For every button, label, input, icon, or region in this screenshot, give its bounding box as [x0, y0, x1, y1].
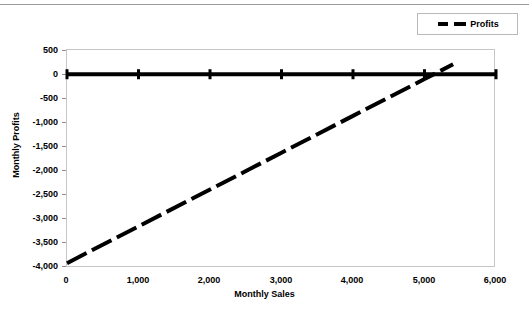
x-tick-label: 2,000 [181, 276, 237, 285]
series-line [67, 64, 453, 263]
series-marker [495, 69, 498, 79]
series-marker [209, 69, 212, 79]
y-axis-title: Monthly Profits [11, 85, 21, 205]
x-tick-label: 3,000 [253, 276, 309, 285]
series-marker [280, 69, 283, 79]
y-tick-label: 0 [12, 70, 58, 79]
series-marker [352, 69, 355, 79]
x-tick-label: 1,000 [110, 276, 166, 285]
y-tick-label: -3,500 [12, 238, 58, 247]
series-marker [66, 69, 69, 79]
legend-item-profits: Profits [436, 19, 499, 29]
x-axis-title: Monthly Sales [0, 289, 529, 299]
y-tick-label: 500 [12, 46, 58, 55]
dashed-line-swatch-icon [436, 22, 468, 26]
plot-area [66, 49, 495, 267]
legend-item-label: Profits [470, 19, 499, 29]
x-tick-label: 4,000 [324, 276, 380, 285]
series-layer [67, 50, 496, 268]
x-tick-label: 6,000 [467, 276, 523, 285]
chart-canvas: Profits 500 0 -500 -1,000 -1,500 -2,000 … [0, 0, 529, 324]
x-tick-label: 0 [38, 276, 94, 285]
y-tick-label: -3,000 [12, 214, 58, 223]
series-marker [137, 69, 140, 79]
x-tick-label: 5,000 [396, 276, 452, 285]
chart-legend: Profits [417, 13, 518, 35]
y-tick-label: -4,000 [12, 262, 58, 271]
